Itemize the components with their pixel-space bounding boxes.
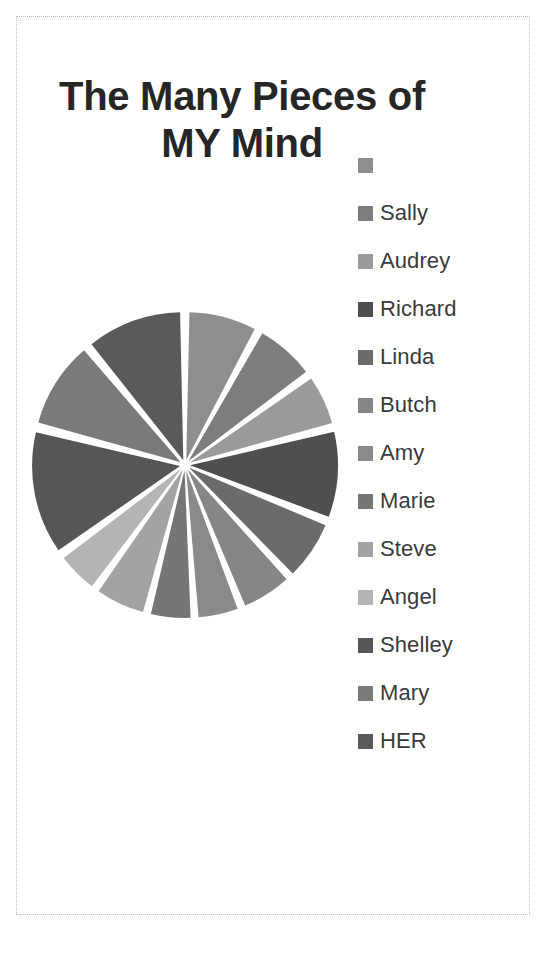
legend-item[interactable]: Steve <box>358 525 547 573</box>
pie-chart[interactable] <box>25 305 345 625</box>
legend-swatch-icon <box>358 590 373 605</box>
legend-swatch-icon <box>358 206 373 221</box>
legend-item-label: Linda <box>380 346 434 368</box>
legend-item[interactable]: Amy <box>358 429 547 477</box>
legend-item[interactable] <box>358 141 547 189</box>
legend-swatch-icon <box>358 254 373 269</box>
legend-swatch-icon <box>358 638 373 653</box>
legend-item-label: Marie <box>380 490 436 512</box>
legend-item[interactable]: Audrey <box>358 237 547 285</box>
legend-item[interactable]: Marie <box>358 477 547 525</box>
legend-item[interactable]: Richard <box>358 285 547 333</box>
legend-swatch-icon <box>358 302 373 317</box>
legend-swatch-icon <box>358 398 373 413</box>
legend-item-label: HER <box>380 730 427 752</box>
legend-swatch-icon <box>358 542 373 557</box>
legend-item[interactable]: Mary <box>358 669 547 717</box>
legend-item-label: Angel <box>380 586 437 608</box>
chart-legend: SallyAudreyRichardLindaButchAmyMarieStev… <box>358 141 547 765</box>
legend-item[interactable]: Sally <box>358 189 547 237</box>
legend-item-label: Richard <box>380 298 457 320</box>
legend-swatch-icon <box>358 446 373 461</box>
legend-item-label: Amy <box>380 442 424 464</box>
slide-frame: The Many Pieces of MY Mind SallyAudreyRi… <box>16 16 530 915</box>
legend-item[interactable]: Angel <box>358 573 547 621</box>
legend-item[interactable]: Butch <box>358 381 547 429</box>
chart-title-line-1: The Many Pieces of <box>37 73 447 120</box>
legend-item-label: Steve <box>380 538 437 560</box>
legend-item-label: Shelley <box>380 634 453 656</box>
legend-swatch-icon <box>358 158 373 173</box>
legend-swatch-icon <box>358 734 373 749</box>
legend-swatch-icon <box>358 494 373 509</box>
legend-item-label: Mary <box>380 682 429 704</box>
legend-swatch-icon <box>358 350 373 365</box>
legend-swatch-icon <box>358 686 373 701</box>
pie-chart-svg[interactable] <box>25 305 345 625</box>
legend-item-label: Butch <box>380 394 437 416</box>
legend-item[interactable]: Linda <box>358 333 547 381</box>
legend-item-label: Audrey <box>380 250 450 272</box>
legend-item[interactable]: HER <box>358 717 547 765</box>
legend-item[interactable]: Shelley <box>358 621 547 669</box>
legend-item-label: Sally <box>380 202 428 224</box>
